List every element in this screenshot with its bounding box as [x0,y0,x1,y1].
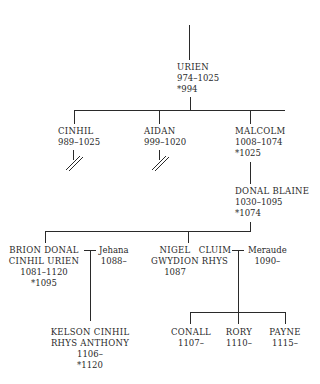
name-line1: CLUIM [199,245,231,256]
name-line1: KELSON CINHIL [51,327,130,338]
dates: 1115– [269,338,301,349]
node-nigel: NIGEL GWYDION 1087 [151,245,199,278]
connector [90,250,91,321]
connector [190,97,191,111]
name-line1: NIGEL [151,245,199,256]
node-payne: PAYNE 1115– [269,327,301,349]
node-cinhil: CINHIL 989–1025 [58,126,100,148]
name: MALCOLM [235,126,285,137]
family-tree-diagram: URIEN 974–1025 *994 CINHIL 989–1025 AIDA… [0,0,320,384]
name-line2: RHYS [199,256,231,267]
name-line2: RHYS ANTHONY [51,338,130,349]
dates: 989–1025 [58,137,100,148]
dates: 1107– [171,338,211,349]
connector [190,312,191,324]
connector [238,312,239,324]
dates: 1088– [99,256,129,267]
line-ended-mark [150,154,172,172]
name-line2: CINHIL URIEN [9,256,80,267]
connector [45,231,46,243]
name: CONALL [171,327,211,338]
node-malcolm: MALCOLM 1008–1074 *1025 [235,126,285,159]
connector [74,110,285,111]
connector [250,110,251,124]
connector [74,110,75,124]
reign: *1120 [51,360,130,371]
dates: 999–1020 [144,137,186,148]
name: PAYNE [269,327,301,338]
reign: *1095 [9,278,80,289]
dates: 974–1025 [177,73,219,84]
reign: *1025 [235,148,285,159]
name: Jehana [99,245,129,256]
name: DONAL BLAINE [235,186,309,197]
dates: 1090– [248,256,287,267]
spouse-jehana: Jehana 1088– [99,245,129,267]
dates: 1030–1095 [235,197,309,208]
dates: 1087 [151,267,199,278]
connector [285,312,286,324]
connector [189,25,190,60]
name-line2: GWYDION [151,256,199,267]
node-rhys: CLUIM RHYS [199,245,231,267]
node-urien: URIEN 974–1025 *994 [177,62,219,95]
name: CINHIL [58,126,100,137]
spouse-meraude: Meraude 1090– [248,245,287,267]
connector [250,162,251,184]
name: AIDAN [144,126,186,137]
dates: 1008–1074 [235,137,285,148]
name: URIEN [177,62,219,73]
connector [159,110,160,124]
node-kelson: KELSON CINHIL RHYS ANTHONY 1106– *1120 [51,327,130,371]
connector [238,250,239,313]
dates: 1081–1120 [9,267,80,278]
connector [45,231,251,232]
node-aidan: AIDAN 999–1020 [144,126,186,148]
line-ended-mark [64,154,86,172]
reign: *994 [177,84,219,95]
dates: 1106– [51,349,130,360]
dates: 1110– [226,338,252,349]
name: Meraude [248,245,287,256]
name: RORY [226,327,252,338]
node-donal-blaine: DONAL BLAINE 1030–1095 *1074 [235,186,309,219]
connector [188,231,189,243]
name-line1: BRION DONAL [9,245,80,256]
node-brion: BRION DONAL CINHIL URIEN 1081–1120 *1095 [9,245,80,289]
node-conall: CONALL 1107– [171,327,211,349]
node-rory: RORY 1110– [226,327,252,349]
reign: *1074 [235,208,309,219]
